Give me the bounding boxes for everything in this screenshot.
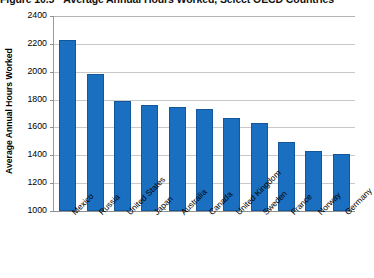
y-tick-label-2200: 2200 — [3, 38, 47, 48]
y-tick-label-1000: 1000 — [3, 205, 47, 215]
y-tick-label-1800: 1800 — [3, 94, 47, 104]
figure-number: Figure 10.5 — [0, 0, 54, 5]
bar — [169, 107, 186, 211]
y-tick-label-1600: 1600 — [3, 121, 47, 131]
bar — [59, 40, 76, 211]
bar-series — [54, 16, 355, 211]
x-axis-labels: MexicoRussiaUnited StatesJapanAustraliaC… — [53, 212, 354, 278]
plot-area: 10001200140016001800200022002400 — [53, 16, 354, 211]
y-tick-label-1400: 1400 — [3, 149, 47, 159]
figure-title-text: Average Annual Hours Worked, Select OECD… — [63, 0, 334, 5]
y-tick-label-2000: 2000 — [3, 66, 47, 76]
y-tick-label-2400: 2400 — [3, 10, 47, 20]
y-tick-label-1200: 1200 — [3, 177, 47, 187]
figure-title: Figure 10.5Average Annual Hours Worked, … — [0, 0, 358, 7]
